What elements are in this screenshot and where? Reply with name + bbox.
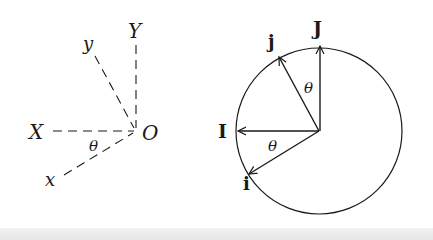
theta-lower-angle-label: θ (268, 137, 277, 155)
Y-axis-label: Y (128, 19, 143, 43)
y-axis-label: y (82, 33, 94, 54)
unit-circle-diagram: J j I i θ θ (218, 17, 402, 214)
theta-angle-label: θ (89, 137, 98, 155)
i-vector-arrow (249, 131, 319, 174)
I-vector-label: I (218, 120, 227, 142)
j-vector-label: j (266, 31, 275, 52)
J-vector-label: J (311, 17, 322, 39)
x-axis-dashed (64, 133, 133, 175)
rotated-axes-diagram: Y y X x O θ (27, 19, 158, 190)
bottom-scan-band (0, 228, 433, 240)
y-axis-dashed (95, 56, 134, 128)
X-axis-label: X (27, 120, 44, 144)
x-axis-label: x (45, 169, 55, 190)
origin-label: O (142, 121, 158, 145)
theta-upper-angle-label: θ (304, 79, 313, 97)
i-vector-label: i (243, 173, 250, 194)
figure-canvas: Y y X x O θ J j I i θ θ (0, 0, 433, 240)
